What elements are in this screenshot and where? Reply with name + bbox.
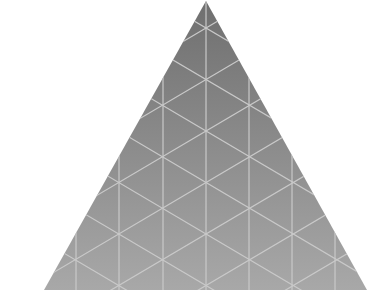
grid-line xyxy=(0,0,379,27)
triangle-grid xyxy=(0,0,379,294)
triangle-grid-diagram xyxy=(0,0,379,294)
